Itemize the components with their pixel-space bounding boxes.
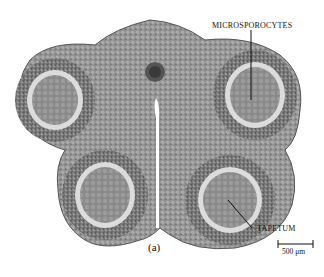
micrograph-figure: MICROSPOROCYTES TAPETUM (a) 500 μm bbox=[0, 0, 324, 277]
scale-bar-label: 500 μm bbox=[282, 247, 305, 256]
figure-caption: (a) bbox=[148, 241, 160, 253]
tapetum-label: TAPETUM bbox=[257, 224, 296, 233]
anther-cross-section-image bbox=[0, 0, 324, 277]
microsporocytes-label: MICROSPOROCYTES bbox=[212, 21, 292, 30]
